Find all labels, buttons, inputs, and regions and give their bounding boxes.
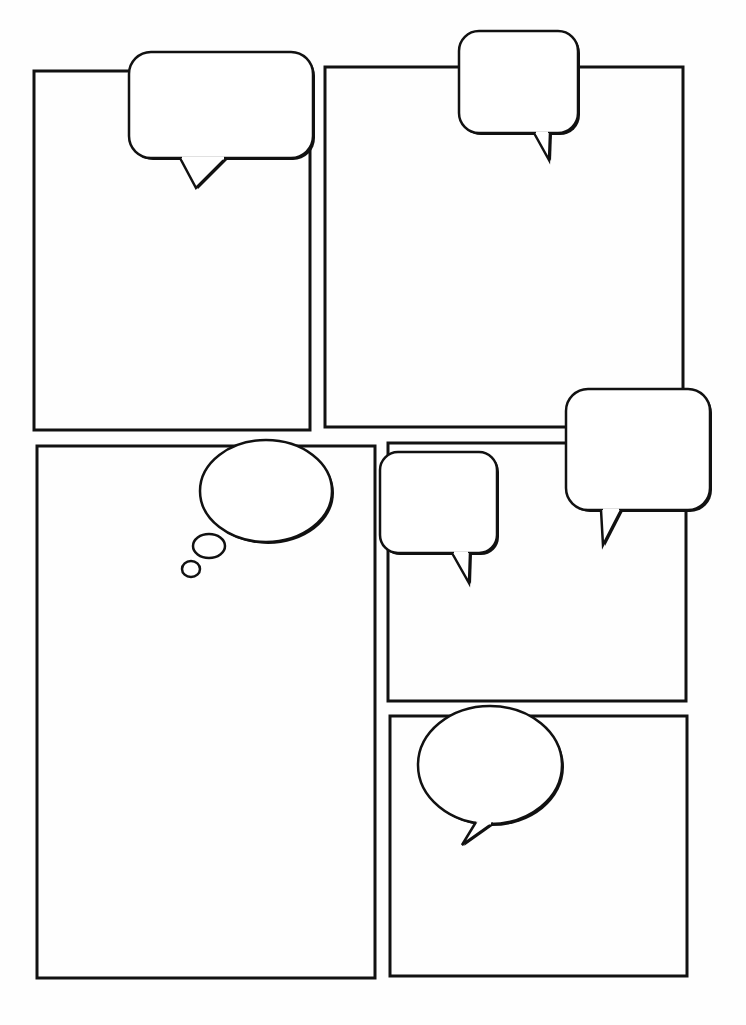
thought-dot [193,534,225,558]
speech-bubble-5 [418,706,564,846]
speech-bubble-4 [380,452,499,584]
thought-cloud [200,440,332,542]
speech-bubble-3 [566,389,712,546]
comic-page-template [0,0,746,1025]
thought-bubble [182,440,334,577]
panel-3 [37,446,375,978]
bubble-tail [534,133,550,160]
speech-bubble-2 [459,31,580,161]
bubble-tail [601,510,621,545]
bubble-tail [452,553,470,583]
speech-bubble-1 [129,52,315,189]
thought-dot [182,561,200,577]
bubble-tail [462,822,493,845]
comic-layout-canvas [0,0,746,1025]
